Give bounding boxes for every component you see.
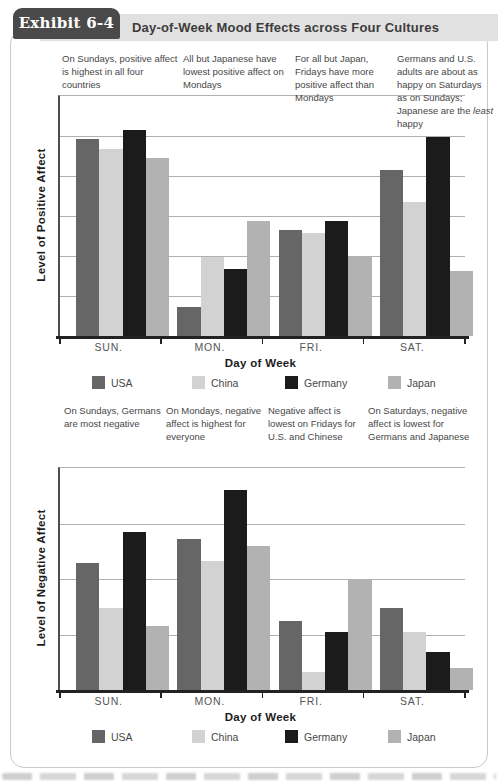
bar-usa-sun: [76, 139, 99, 336]
legend-swatch: [388, 376, 401, 389]
negative-chart-legend: USAChinaGermanyJapan: [0, 730, 498, 745]
x-axis-tick: [464, 693, 466, 698]
x-axis-label: SAT.: [362, 341, 463, 353]
bar-japan-sun: [146, 626, 169, 690]
bar-usa-mon: [177, 307, 200, 336]
annotation-italic-word: least: [473, 105, 493, 116]
x-axis-label: MON.: [159, 695, 260, 707]
bar-japan-fri: [348, 257, 371, 336]
bar-japan-fri: [348, 579, 371, 690]
bar-japan-mon: [247, 546, 270, 690]
legend-item-germany: Germany: [285, 730, 347, 743]
bar-cluster: [380, 96, 473, 336]
legend-item-usa: USA: [92, 730, 133, 743]
x-axis-label: SUN.: [58, 341, 159, 353]
bar-usa-sat: [380, 608, 403, 690]
annotation: For all but Japan, Fridays have more pos…: [295, 52, 399, 104]
bar-china-sun: [99, 608, 122, 690]
legend-label: Japan: [407, 377, 436, 389]
annotation: On Sundays, positive affect is highest i…: [62, 52, 184, 91]
legend-item-china: China: [192, 730, 238, 743]
bar-cluster: [76, 96, 169, 336]
legend-swatch: [285, 376, 298, 389]
legend-label: USA: [111, 377, 133, 389]
legend-item-usa: USA: [92, 376, 133, 389]
negative-y-axis-label: Level of Negative Affect: [35, 509, 47, 646]
bar-germany-sat: [426, 137, 449, 336]
positive-plot-area: [58, 95, 465, 336]
annotation: Negative affect is lowest on Fridays for…: [268, 404, 370, 443]
annotation: On Saturdays, negative affect is lowest …: [368, 404, 480, 443]
legend-item-japan: Japan: [388, 730, 436, 743]
bar-cluster: [177, 96, 270, 336]
bar-china-sun: [99, 149, 122, 336]
legend-item-china: China: [192, 376, 238, 389]
bar-japan-sun: [146, 158, 169, 336]
bar-cluster: [76, 468, 169, 690]
category-cell: [60, 96, 161, 336]
x-axis-label: MON.: [159, 341, 260, 353]
legend-label: China: [211, 377, 238, 389]
bar-germany-sun: [123, 130, 146, 336]
bar-germany-fri: [325, 632, 348, 690]
category-cell: [364, 96, 465, 336]
legend-item-japan: Japan: [388, 376, 436, 389]
legend-label: USA: [111, 731, 133, 743]
bar-cluster: [177, 468, 270, 690]
bar-usa-fri: [279, 230, 302, 336]
bar-germany-mon: [224, 269, 247, 336]
category-cell: [364, 468, 465, 690]
legend-swatch: [285, 730, 298, 743]
bar-china-mon: [201, 561, 224, 690]
bar-cluster: [279, 468, 372, 690]
exhibit-page: Day-of-Week Mood Effects across Four Cul…: [0, 0, 498, 781]
category-cell: [60, 468, 161, 690]
bar-japan-sat: [450, 271, 473, 336]
annotation: On Sundays, Germans are most negative: [64, 404, 172, 430]
negative-x-axis-labels: SUN.MON.FRI.SAT.: [58, 695, 463, 709]
category-cell: [263, 96, 364, 336]
legend-label: Germany: [304, 731, 347, 743]
legend-swatch: [92, 730, 105, 743]
bar-germany-mon: [224, 490, 247, 690]
legend-swatch: [388, 730, 401, 743]
negative-plot-area: [58, 467, 465, 690]
legend-label: Germany: [304, 377, 347, 389]
x-axis-label: SAT.: [362, 695, 463, 707]
legend-swatch: [92, 376, 105, 389]
legend-item-germany: Germany: [285, 376, 347, 389]
x-axis-label: FRI.: [261, 695, 362, 707]
bar-cluster: [279, 96, 372, 336]
exhibit-badge: Exhibit 6-4: [13, 8, 120, 39]
positive-x-axis-labels: SUN.MON.FRI.SAT.: [58, 341, 463, 355]
legend-swatch: [192, 730, 205, 743]
x-axis-label: FRI.: [261, 341, 362, 353]
category-cell: [161, 468, 262, 690]
bar-germany-sun: [123, 532, 146, 690]
legend-label: China: [211, 731, 238, 743]
negative-x-axis-title: Day of Week: [58, 711, 463, 723]
bar-germany-fri: [325, 221, 348, 336]
bar-germany-sat: [426, 652, 449, 690]
cropped-caption-text: [2, 773, 496, 780]
annotation: On Mondays, negative affect is highest f…: [166, 404, 272, 443]
bar-china-sat: [403, 632, 426, 690]
category-cell: [161, 96, 262, 336]
bar-japan-mon: [247, 221, 270, 336]
bar-usa-fri: [279, 621, 302, 690]
bar-china-fri: [302, 233, 325, 336]
category-cell: [263, 468, 364, 690]
bar-usa-sat: [380, 170, 403, 336]
x-axis-label: SUN.: [58, 695, 159, 707]
bar-china-mon: [201, 257, 224, 336]
legend-swatch: [192, 376, 205, 389]
bar-cluster: [380, 468, 473, 690]
positive-y-axis-label: Level of Positive Affect: [35, 148, 47, 281]
positive-chart-legend: USAChinaGermanyJapan: [0, 376, 498, 391]
bar-china-fri: [302, 672, 325, 690]
x-axis-tick: [464, 339, 466, 344]
positive-x-axis-title: Day of Week: [58, 357, 463, 369]
bar-usa-mon: [177, 539, 200, 690]
annotation: All but Japanese have lowest positive af…: [183, 52, 295, 91]
annotation: Germans and U.S. adults are about as hap…: [397, 52, 494, 130]
